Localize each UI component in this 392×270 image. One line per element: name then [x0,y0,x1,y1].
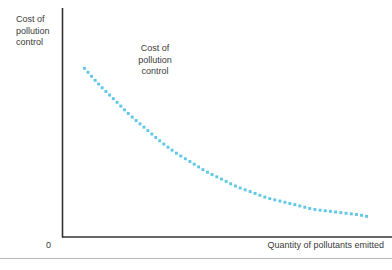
x-axis-label: Quantity of pollutants emitted [267,240,384,251]
origin-label: 0 [46,240,51,251]
curve-annotation-label: Cost of pollution control [126,43,184,78]
chart-figure: Cost of pollution control Cost of pollut… [0,0,392,270]
footer-divider [0,258,392,259]
cost-of-pollution-control-curve [83,67,368,218]
y-axis-label: Cost of pollution control [16,14,60,49]
